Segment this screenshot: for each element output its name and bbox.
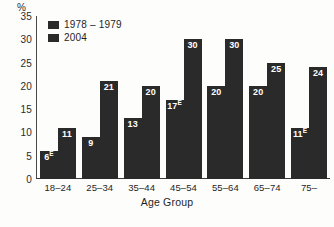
x-axis-tick-label: 18–24	[36, 182, 80, 193]
bar-value-label: 24	[309, 69, 327, 78]
x-axis-tick-label: 35–44	[120, 182, 164, 193]
bar-chart: % 05101520253035 6E11921132017E302030202…	[0, 0, 334, 227]
y-axis-tick-5: 5	[10, 150, 32, 161]
bar-group: 17E30	[166, 16, 202, 179]
bar: 17E	[166, 100, 184, 179]
bar-group: 2025	[249, 16, 285, 179]
x-axis-tick-label: 75–	[287, 182, 331, 193]
legend-item: 1978 – 1979	[48, 19, 122, 30]
y-axis-tick-30: 30	[10, 34, 32, 45]
bar-value-label: 30	[184, 41, 202, 50]
bar-value-label: 20	[207, 88, 225, 97]
bar-value-label: 11E	[291, 130, 309, 139]
legend-label: 2004	[64, 32, 87, 43]
bar: 20	[142, 86, 160, 179]
bar-value-label: 20	[142, 88, 160, 97]
bar-group: 2030	[207, 16, 243, 179]
x-axis-tick-label: 25–34	[78, 182, 122, 193]
x-axis-tick-label: 65–74	[245, 182, 289, 193]
bar-group: 11E24	[291, 16, 327, 179]
bar: 11E	[291, 128, 309, 179]
legend-swatch	[48, 21, 59, 29]
legend-swatch	[48, 34, 59, 42]
x-axis-title: Age Group	[0, 196, 334, 208]
bar: 25	[267, 63, 285, 179]
bar-value-label: 30	[225, 41, 243, 50]
bar: 9	[82, 137, 100, 179]
y-axis-tick-20: 20	[10, 80, 32, 91]
bar-value-label: 9	[82, 139, 100, 148]
legend-item: 2004	[48, 32, 122, 43]
y-axis-tick-25: 25	[10, 57, 32, 68]
y-axis-tick-0: 0	[10, 174, 32, 185]
bar-value-label: 6E	[40, 153, 58, 162]
y-axis-tick-15: 15	[10, 104, 32, 115]
x-axis-tick-label: 45–54	[162, 182, 206, 193]
y-axis-tick-35: 35	[10, 11, 32, 22]
bar: 21	[100, 81, 118, 179]
legend-label: 1978 – 1979	[64, 19, 122, 30]
y-axis-tick-labels: 05101520253035	[8, 0, 32, 227]
bar: 20	[207, 86, 225, 179]
bar-value-label: 17E	[166, 102, 184, 111]
y-axis-tick-10: 10	[10, 127, 32, 138]
bar-value-label: 20	[249, 88, 267, 97]
chart-legend: 1978 – 19792004	[48, 19, 122, 45]
bar-value-label: 13	[124, 120, 142, 129]
bar-value-label: 25	[267, 65, 285, 74]
bar: 30	[184, 39, 202, 179]
bar: 24	[309, 67, 327, 179]
bar: 6E	[40, 151, 58, 179]
bar-group: 1320	[124, 16, 160, 179]
bar: 11	[58, 128, 76, 179]
bar-value-label: 21	[100, 83, 118, 92]
bar: 20	[249, 86, 267, 179]
x-axis-tick-labels: 18–2425–3435–4445–5455–6465–7475–	[37, 182, 330, 196]
bar-value-label: 11	[58, 130, 76, 139]
bar: 13	[124, 118, 142, 179]
bar: 30	[225, 39, 243, 179]
x-axis-tick-label: 55–64	[203, 182, 247, 193]
